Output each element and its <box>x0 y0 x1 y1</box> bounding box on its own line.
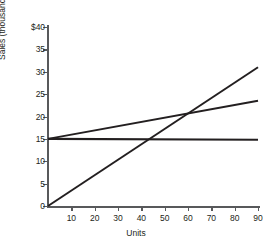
line-chart: 05101520253035$40 102030405060708090 Sal… <box>0 0 272 248</box>
series-container <box>0 0 272 248</box>
series-line-moderate-line <box>48 101 258 139</box>
series-line-steep-line <box>48 67 258 206</box>
x-axis-title: Units <box>0 228 272 238</box>
y-axis-title: Sales (thousands omitted) <box>0 0 7 60</box>
series-line-flat-line <box>48 139 258 140</box>
